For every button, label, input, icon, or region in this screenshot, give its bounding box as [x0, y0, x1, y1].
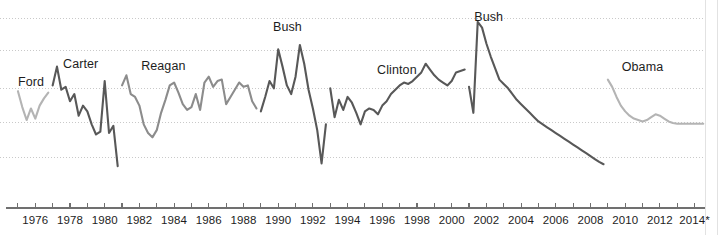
annotation-reagan-2: Reagan	[141, 60, 185, 73]
x-tick-label-2010: 2010	[612, 215, 638, 227]
x-tick-label-1996: 1996	[369, 215, 395, 227]
annotation-clinton-4: Clinton	[377, 64, 417, 77]
x-tick-label-1988: 1988	[230, 215, 256, 227]
annotation-ford-0: Ford	[18, 76, 44, 89]
chart-plot-area	[0, 0, 718, 235]
x-tick-label-1982: 1982	[126, 215, 152, 227]
x-tick-label-2002: 2002	[473, 215, 499, 227]
x-tick-label-1976: 1976	[22, 215, 48, 227]
x-tick-label-1978: 1978	[57, 215, 83, 227]
annotation-bush-5: Bush	[474, 11, 503, 24]
presidential-line-chart: FordCarterReaganBushClintonBushObama 197…	[0, 0, 718, 235]
series-line-bush-5	[469, 22, 603, 164]
x-tick-label-2008: 2008	[577, 215, 603, 227]
x-tick-label-2006: 2006	[543, 215, 569, 227]
x-tick-label-1986: 1986	[196, 215, 222, 227]
x-tick-label-1998: 1998	[404, 215, 430, 227]
x-tick-label-1984: 1984	[161, 215, 187, 227]
annotation-bush-3: Bush	[273, 21, 302, 34]
annotation-obama-6: Obama	[622, 61, 664, 74]
x-tick-label-1990: 1990	[265, 215, 291, 227]
x-tick-label-2000: 2000	[439, 215, 465, 227]
series-line-carter-1	[53, 67, 118, 167]
series-line-reagan-2	[122, 75, 256, 137]
x-axis	[6, 203, 705, 208]
series-line-obama-6	[608, 80, 703, 124]
x-tick-label-2012: 2012	[647, 215, 673, 227]
right-edge-border	[705, 0, 706, 235]
series-line-bush-3	[261, 45, 326, 163]
x-tick-label-1994: 1994	[335, 215, 361, 227]
annotation-carter-1: Carter	[63, 58, 98, 71]
series-lines	[18, 22, 703, 166]
series-line-ford-0	[18, 91, 48, 120]
x-tick-label-2004: 2004	[508, 215, 534, 227]
x-tick-label-1992: 1992	[300, 215, 326, 227]
x-tick-label-1980: 1980	[92, 215, 118, 227]
